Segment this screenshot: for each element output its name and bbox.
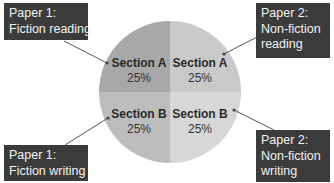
section-name: Section B xyxy=(165,107,235,122)
callout-paper2-nonfiction-writing: Paper 2: Non-fiction writing xyxy=(256,130,330,182)
callout-line: Paper 1: xyxy=(9,148,84,164)
callout-line: Fiction writing xyxy=(9,164,84,180)
callout-line: Non-fiction xyxy=(261,149,326,165)
quadrant-label-paper1-section-b: Section B 25% xyxy=(104,107,174,137)
exam-structure-diagram: Section A 25% Section A 25% Section B 25… xyxy=(0,0,334,183)
callout-paper1-fiction-reading: Paper 1: Fiction reading xyxy=(4,3,88,40)
callout-line: Fiction reading xyxy=(9,22,84,38)
connector-tl xyxy=(64,41,107,63)
callout-line: reading xyxy=(261,37,326,53)
callout-paper1-fiction-writing: Paper 1: Fiction writing xyxy=(4,145,88,181)
callout-line: Non-fiction xyxy=(261,22,326,38)
connector-tr xyxy=(224,37,257,54)
section-percent: 25% xyxy=(104,71,174,86)
section-percent: 25% xyxy=(104,122,174,137)
callout-paper2-nonfiction-reading: Paper 2: Non-fiction reading xyxy=(256,3,330,58)
callout-line: Paper 2: xyxy=(261,133,326,149)
section-percent: 25% xyxy=(165,71,235,86)
section-percent: 25% xyxy=(165,122,235,137)
section-name: Section A xyxy=(104,56,174,71)
quadrant-label-paper2-section-b: Section B 25% xyxy=(165,107,235,137)
connector-br xyxy=(234,110,274,130)
quadrant-label-paper1-section-a: Section A 25% xyxy=(104,56,174,86)
section-name: Section A xyxy=(165,56,235,71)
callout-line: Paper 1: xyxy=(9,6,84,22)
callout-line: Paper 2: xyxy=(261,6,326,22)
section-name: Section B xyxy=(104,107,174,122)
callout-line: writing xyxy=(261,164,326,180)
connector-bl xyxy=(65,118,108,145)
quadrant-label-paper2-section-a: Section A 25% xyxy=(165,56,235,86)
